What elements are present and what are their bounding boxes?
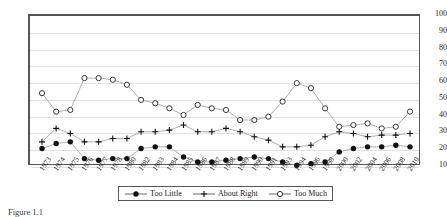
data-point xyxy=(294,81,299,86)
legend-label: About Right xyxy=(218,190,258,198)
data-point xyxy=(379,126,384,131)
series-layer xyxy=(30,16,422,167)
data-point xyxy=(138,129,144,135)
data-point xyxy=(280,99,285,104)
data-point xyxy=(407,109,412,114)
y-axis-tick-label: 90 xyxy=(421,27,447,35)
data-point xyxy=(223,107,228,112)
data-point xyxy=(124,82,129,87)
data-point xyxy=(181,122,187,128)
data-point xyxy=(209,129,215,135)
data-point xyxy=(393,132,399,138)
data-point xyxy=(96,139,102,145)
data-point xyxy=(322,134,328,140)
data-point xyxy=(252,117,257,122)
data-point xyxy=(195,129,201,135)
data-point xyxy=(67,130,73,136)
data-point xyxy=(365,134,371,140)
series-about-right xyxy=(39,122,413,150)
data-point xyxy=(153,101,158,106)
data-point xyxy=(138,97,143,102)
plot-area xyxy=(28,14,420,165)
data-point xyxy=(266,114,271,119)
y-axis-tick-label: 80 xyxy=(421,44,447,52)
data-point xyxy=(68,139,73,144)
data-point xyxy=(237,129,243,135)
data-point xyxy=(133,191,138,196)
data-point xyxy=(308,86,313,91)
data-point xyxy=(365,121,370,126)
data-point xyxy=(96,75,101,80)
data-point xyxy=(201,191,207,197)
data-point xyxy=(181,112,186,117)
chart-legend: Too LittleAbout RightToo Much xyxy=(118,186,333,201)
data-point xyxy=(379,132,385,138)
data-point xyxy=(82,75,87,80)
data-point xyxy=(294,144,300,150)
data-point xyxy=(351,146,356,151)
data-point xyxy=(39,146,44,151)
data-point xyxy=(365,144,370,149)
data-point xyxy=(152,129,158,135)
data-point xyxy=(223,125,229,131)
data-point xyxy=(308,142,314,148)
data-point xyxy=(53,141,58,146)
y-axis-tick-label: 50 xyxy=(421,94,447,102)
filled-circle-icon xyxy=(124,189,148,199)
data-point xyxy=(393,142,398,147)
data-point xyxy=(166,127,172,133)
data-point xyxy=(337,124,342,129)
data-point xyxy=(167,106,172,111)
data-point xyxy=(280,144,286,150)
open-circle-icon xyxy=(268,189,292,199)
data-point xyxy=(110,135,116,141)
data-point xyxy=(167,144,172,149)
y-axis-tick-label: 30 xyxy=(421,127,447,135)
data-point xyxy=(350,130,356,136)
data-point xyxy=(337,149,342,154)
data-point xyxy=(124,135,130,141)
data-point xyxy=(138,146,143,151)
legend-item-about-right[interactable]: About Right xyxy=(192,189,258,199)
figure-caption: Figure 1.1 xyxy=(8,207,447,217)
plus-icon xyxy=(192,189,216,199)
data-point xyxy=(379,144,384,149)
data-point xyxy=(407,130,413,136)
y-axis-tick-label: 40 xyxy=(421,111,447,119)
series-line xyxy=(42,78,410,128)
data-point xyxy=(39,91,44,96)
legend-label: Too Much xyxy=(294,190,327,198)
data-point xyxy=(238,117,243,122)
data-point xyxy=(265,137,271,143)
y-axis-tick-label: 100 xyxy=(421,10,447,18)
data-point xyxy=(54,109,59,114)
data-point xyxy=(209,106,214,111)
series-too-much xyxy=(39,75,412,131)
legend-label: Too Little xyxy=(150,190,182,198)
legend-item-too-much[interactable]: Too Much xyxy=(268,189,327,199)
data-point xyxy=(251,134,257,140)
data-point xyxy=(153,144,158,149)
chart-figure: 100908070605040302010 197319741975197619… xyxy=(0,0,447,217)
y-axis-tick-label: 60 xyxy=(421,77,447,85)
data-point xyxy=(110,77,115,82)
data-point xyxy=(81,139,87,145)
data-point xyxy=(68,107,73,112)
data-point xyxy=(393,124,398,129)
y-axis-tick-label: 20 xyxy=(421,144,447,152)
data-point xyxy=(277,191,282,196)
data-point xyxy=(322,106,327,111)
data-point xyxy=(351,122,356,127)
legend-item-too-little[interactable]: Too Little xyxy=(124,189,182,199)
y-axis-tick-label: 70 xyxy=(421,60,447,68)
data-point xyxy=(407,144,412,149)
data-point xyxy=(195,102,200,107)
